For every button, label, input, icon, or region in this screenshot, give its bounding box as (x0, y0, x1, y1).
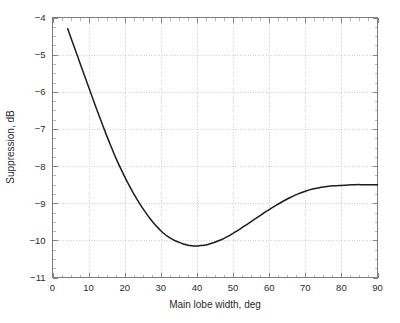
x-tick-label: 60 (264, 282, 275, 293)
y-tick-label: −11 (30, 272, 45, 283)
x-tick-label: 50 (228, 282, 239, 293)
y-tick-label: −10 (29, 235, 45, 246)
y-tick-label: −4 (35, 12, 46, 23)
x-tick-label: 10 (83, 282, 94, 293)
figure-background (0, 0, 400, 323)
figure-container: 0102030405060708090 −11−10−9−8−7−6−5−4 M… (0, 0, 400, 323)
x-tick-label: 80 (336, 282, 347, 293)
y-tick-label: −7 (35, 123, 46, 134)
x-tick-label: 70 (300, 282, 311, 293)
x-tick-label: 20 (119, 282, 130, 293)
x-tick-label: 40 (192, 282, 203, 293)
y-tick-label: −9 (35, 198, 46, 209)
x-tick-label: 90 (372, 282, 383, 293)
suppression-vs-mainlobe-chart: 0102030405060708090 −11−10−9−8−7−6−5−4 M… (0, 0, 400, 323)
x-tick-label: 30 (156, 282, 167, 293)
y-tick-label: −6 (35, 86, 46, 97)
y-tick-label: −5 (35, 49, 46, 60)
x-axis-title: Main lobe width, deg (169, 299, 261, 310)
y-tick-label: −8 (35, 161, 46, 172)
y-axis-title: Suppression, dB (5, 110, 16, 184)
x-tick-label: 0 (50, 282, 55, 293)
